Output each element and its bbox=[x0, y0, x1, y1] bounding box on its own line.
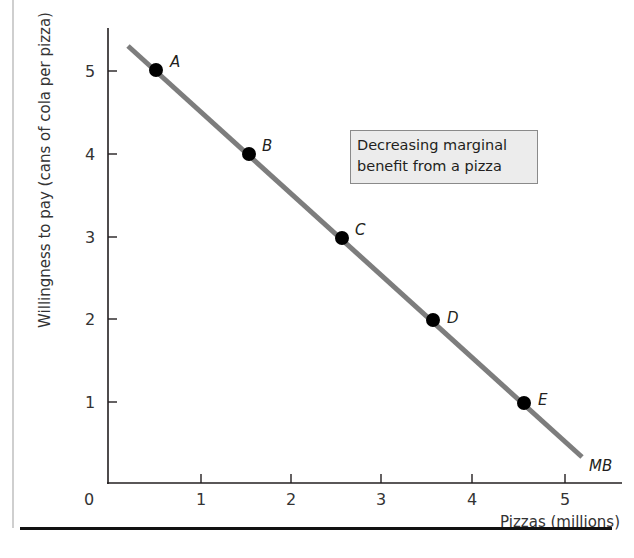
point-label-e: E bbox=[538, 391, 548, 409]
point-a bbox=[149, 63, 163, 77]
y-axis-title: Willingness to pay (cans of cola per piz… bbox=[36, 12, 54, 328]
x-tick-label-2: 2 bbox=[286, 490, 296, 509]
y-tick-label-3: 3 bbox=[85, 228, 95, 247]
x-tick-label-1: 1 bbox=[196, 490, 206, 509]
y-tick-label-5: 5 bbox=[85, 62, 95, 81]
x-tick-label-3: 3 bbox=[376, 490, 386, 509]
point-label-b: B bbox=[262, 137, 272, 155]
mb-chart: 5 4 3 2 1 0 1 2 3 4 5 Pizzas (millions) … bbox=[0, 0, 634, 558]
origin-label: 0 bbox=[84, 490, 94, 509]
annotation-line-2: benefit from a pizza bbox=[357, 156, 531, 177]
y-tick-label-2: 2 bbox=[85, 310, 95, 329]
x-tick-label-5: 5 bbox=[560, 490, 570, 509]
x-tick-label-4: 4 bbox=[467, 490, 477, 509]
point-label-c: C bbox=[355, 221, 366, 239]
bottom-rule bbox=[20, 527, 612, 530]
y-tick-label-1: 1 bbox=[85, 393, 95, 412]
point-b bbox=[242, 147, 256, 161]
point-c bbox=[335, 231, 349, 245]
point-d bbox=[426, 313, 440, 327]
curve-label-mb: MB bbox=[589, 457, 612, 475]
point-label-d: D bbox=[447, 309, 459, 327]
x-ticks bbox=[201, 474, 565, 483]
annotation-line-1: Decreasing marginal bbox=[357, 135, 531, 156]
point-e bbox=[517, 396, 531, 410]
y-tick-label-4: 4 bbox=[85, 145, 95, 164]
point-label-a: A bbox=[169, 53, 180, 71]
y-ticks bbox=[108, 71, 117, 402]
mb-curve bbox=[128, 46, 582, 457]
annotation-box: Decreasing marginal benefit from a pizza bbox=[350, 130, 538, 184]
